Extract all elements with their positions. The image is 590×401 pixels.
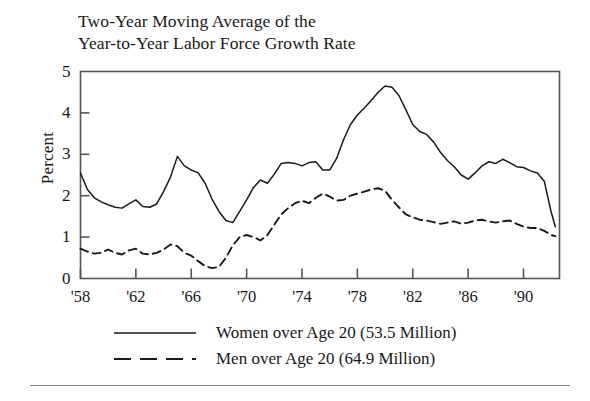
bottom-divider-rule xyxy=(30,385,570,386)
x-tick-label: '78 xyxy=(334,289,380,306)
chart-title: Two-Year Moving Average of the Year-to-Y… xyxy=(78,10,498,55)
x-tick-label: '82 xyxy=(390,289,436,306)
chart-figure: Two-Year Moving Average of the Year-to-Y… xyxy=(0,0,590,401)
data-line-women xyxy=(81,86,556,227)
plot-frame xyxy=(81,72,560,279)
chart-legend: Women over Age 20 (53.5 Million) Men ove… xyxy=(0,322,590,374)
y-tick-label: 2 xyxy=(45,187,71,204)
x-tick-label: '62 xyxy=(113,289,159,306)
legend-line-sample-solid xyxy=(112,322,198,344)
legend-label-men: Men over Age 20 (64.9 Million) xyxy=(216,348,435,370)
y-tick-label: 4 xyxy=(45,104,71,121)
y-tick-label: 5 xyxy=(45,63,71,80)
y-tick-label: 3 xyxy=(45,145,71,162)
x-tick-label: '90 xyxy=(501,289,547,306)
plot-frame-rect xyxy=(81,72,560,279)
plot-area: 012345 xyxy=(0,60,590,290)
data-series-layer xyxy=(81,86,556,268)
legend-item-women: Women over Age 20 (53.5 Million) xyxy=(112,322,590,348)
data-line-men xyxy=(81,188,556,268)
y-tick-label: 1 xyxy=(45,228,71,245)
x-tick-label: '86 xyxy=(445,289,491,306)
x-axis-ticks xyxy=(81,269,524,279)
x-tick-label: '58 xyxy=(58,289,104,306)
legend-line-sample-dashed xyxy=(112,348,198,370)
chart-title-line-2: Year-to-Year Labor Force Growth Rate xyxy=(78,32,498,54)
legend-label-women: Women over Age 20 (53.5 Million) xyxy=(216,322,456,344)
x-tick-label: '70 xyxy=(224,289,270,306)
chart-svg xyxy=(0,60,590,290)
x-tick-label: '74 xyxy=(279,289,325,306)
chart-title-line-1: Two-Year Moving Average of the xyxy=(78,10,498,32)
y-tick-label: 0 xyxy=(45,270,71,287)
legend-item-men: Men over Age 20 (64.9 Million) xyxy=(112,348,590,374)
x-tick-label: '66 xyxy=(168,289,214,306)
